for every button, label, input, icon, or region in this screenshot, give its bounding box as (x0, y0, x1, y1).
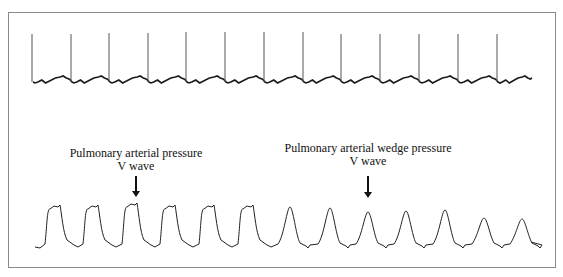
annotation-pa-v-wave: Pulmonary arterial pressure V wave (16, 147, 256, 173)
arrow-down-icon (367, 176, 369, 193)
waveform-canvas (0, 0, 563, 277)
annotation-pcwp-v-wave: Pulmonary arterial wedge pressure V wave (248, 142, 488, 168)
arrow-down-icon (135, 176, 137, 192)
ecg-trace (33, 76, 532, 83)
ecg-spikes (32, 32, 497, 82)
pressure-trace (35, 203, 542, 248)
annotation-subtitle: V wave (16, 160, 256, 173)
annotation-subtitle: V wave (248, 155, 488, 168)
